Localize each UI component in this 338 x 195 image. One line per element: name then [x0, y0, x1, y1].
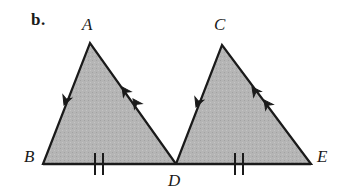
- vertex-label-a: A: [82, 16, 92, 33]
- part-label-b: b.: [31, 11, 46, 28]
- vertex-label-d: D: [168, 172, 180, 189]
- vertex-label-e: E: [317, 148, 327, 165]
- geometry-figure: b. A C B D E: [0, 0, 338, 195]
- geometry-canvas: [0, 0, 338, 195]
- vertex-label-b: B: [24, 148, 34, 165]
- triangle-abd: [43, 43, 176, 164]
- vertex-label-c: C: [214, 16, 225, 33]
